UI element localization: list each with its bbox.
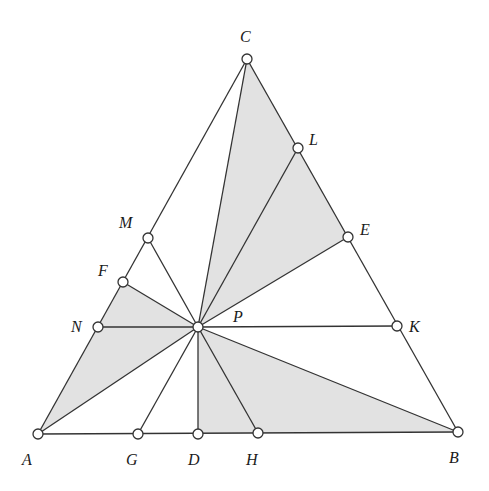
shaded-regions [38, 59, 458, 434]
point-c-label: C [240, 28, 251, 45]
point-m-label: M [118, 214, 134, 231]
point-d-marker [193, 429, 203, 439]
point-h-label: H [245, 451, 259, 468]
point-b-marker [453, 427, 463, 437]
point-l-label: L [308, 131, 318, 148]
point-k-marker [392, 321, 402, 331]
point-e-label: E [359, 221, 370, 238]
point-c-marker [242, 54, 252, 64]
point-f-marker [118, 277, 128, 287]
point-a-marker [33, 429, 43, 439]
geometry-diagram: ABCDEFGHKLMNP [0, 0, 489, 491]
point-p-marker [193, 322, 203, 332]
point-k-label: K [408, 318, 421, 335]
point-l-marker [293, 143, 303, 153]
point-e-marker [343, 232, 353, 242]
point-a-label: A [21, 451, 32, 468]
point-f-label: F [97, 262, 108, 279]
point-p-label: P [232, 308, 243, 325]
point-h-marker [253, 428, 263, 438]
point-g-label: G [126, 451, 138, 468]
point-b-label: B [449, 449, 459, 466]
point-n-marker [93, 322, 103, 332]
segment-pk [198, 326, 397, 327]
shaded-triangle-pfn [98, 282, 198, 327]
point-m-marker [143, 233, 153, 243]
point-d-label: D [187, 451, 200, 468]
point-n-label: N [70, 318, 83, 335]
point-g-marker [133, 429, 143, 439]
